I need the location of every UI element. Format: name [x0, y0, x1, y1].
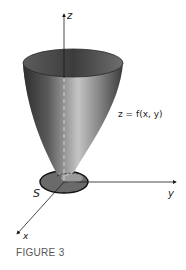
z-axis-label: z	[67, 11, 72, 21]
y-axis-label: y	[168, 189, 174, 199]
region-label: S	[33, 188, 40, 199]
x-axis	[17, 182, 64, 234]
surface-diagram	[0, 0, 186, 270]
x-axis-label: x	[23, 232, 28, 241]
surface-label: z = f(x, y)	[118, 110, 163, 119]
surface-paraboloid	[23, 49, 123, 176]
figure-caption: FIGURE 3	[16, 248, 65, 258]
